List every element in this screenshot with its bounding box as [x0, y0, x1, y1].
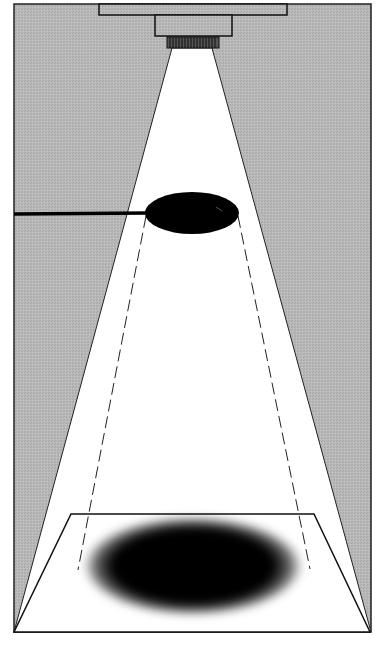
ceiling-mount [99, 4, 287, 15]
occluding-disc [145, 192, 239, 234]
support-rod [14, 213, 148, 214]
cast-shadow [83, 516, 303, 616]
lens-ring [167, 37, 219, 48]
lamp-housing [155, 15, 232, 36]
light-shadow-diagram [0, 0, 379, 645]
